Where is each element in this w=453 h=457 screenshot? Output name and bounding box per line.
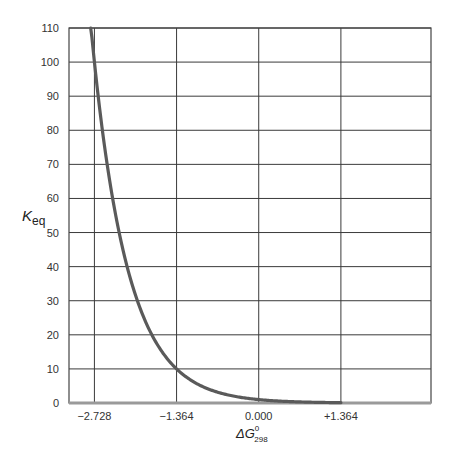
plot-frame <box>69 28 431 403</box>
y-tick-label: 50 <box>47 227 59 239</box>
x-tick-label: −2.728 <box>77 410 111 422</box>
y-tick-label: 30 <box>47 295 59 307</box>
x-tick-label: 0.000 <box>245 410 273 422</box>
data-curve <box>91 28 341 403</box>
x-axis-ticks: −2.728−1.3640.000+1.364 <box>77 410 357 422</box>
frame-border <box>69 28 431 403</box>
x-axis-label: ΔG0298 <box>235 424 268 444</box>
y-tick-label: 100 <box>41 56 59 68</box>
grid-lines <box>69 28 431 403</box>
y-tick-label: 80 <box>47 124 59 136</box>
x-tick-label: −1.364 <box>160 410 194 422</box>
y-tick-label: 0 <box>53 397 59 409</box>
y-tick-label: 60 <box>47 192 59 204</box>
x-tick-label: +1.364 <box>324 410 358 422</box>
y-axis-label: Keq <box>22 207 45 228</box>
y-tick-label: 70 <box>47 158 59 170</box>
y-tick-label: 40 <box>47 261 59 273</box>
y-tick-label: 90 <box>47 90 59 102</box>
y-tick-label: 20 <box>47 329 59 341</box>
y-tick-label: 10 <box>47 363 59 375</box>
chart: 0102030405060708090100110 −2.728−1.3640.… <box>0 0 453 457</box>
keq-curve <box>91 28 341 403</box>
y-tick-label: 110 <box>41 22 59 34</box>
